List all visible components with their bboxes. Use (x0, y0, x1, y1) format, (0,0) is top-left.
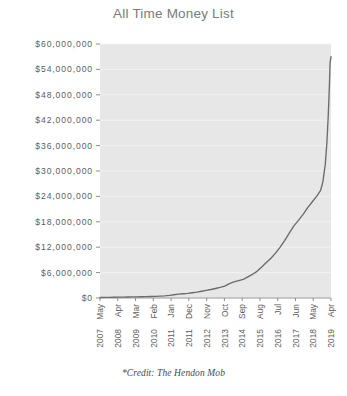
x-axis-tick-label-month: Jun (291, 304, 301, 318)
y-axis-tick-label: $24,000,000 (35, 191, 93, 201)
x-axis-tick-labels: May2007Apr2008Mar2009Feb2010Jan2011Dec20… (95, 303, 336, 347)
x-axis-tick-label-month: Oct (220, 303, 230, 317)
x-axis-tick-label-year: 2018 (308, 329, 318, 348)
x-axis-tick-label-year: 2019 (326, 329, 336, 348)
x-axis-tick-label-year: 2009 (131, 329, 141, 348)
x-axis-tick-label-month: Aug (255, 304, 265, 319)
x-axis-tick-label-year: 2013 (220, 329, 230, 348)
x-axis-tick-label-year: 2012 (202, 329, 212, 348)
x-axis-tick-label-year: 2014 (237, 329, 247, 348)
y-axis-tick-label: $30,000,000 (35, 166, 93, 176)
x-axis-tick-label-month: Mar (131, 304, 141, 319)
y-axis-tick-label: $12,000,000 (35, 242, 93, 252)
y-axis-tick-labels: $0$6,000,000$12,000,000$18,000,000$24,00… (35, 39, 93, 303)
x-axis-tick-label-month: May (308, 303, 318, 320)
y-axis-tick-label: $54,000,000 (35, 64, 93, 74)
x-axis-tick-label-year: 2015 (255, 329, 265, 348)
y-axis-tick-label: $48,000,000 (35, 90, 93, 100)
y-axis-tick-label: $6,000,000 (41, 268, 93, 278)
x-axis-tick-label-month: Sep (237, 304, 247, 319)
x-axis-tick-label-month: Jan (166, 304, 176, 318)
y-axis-tick-label: $36,000,000 (35, 141, 93, 151)
x-axis-tick-label-year: 2007 (95, 329, 105, 348)
x-axis-tick-label-month: Dec (184, 304, 194, 319)
x-axis-tick-label-month: Jul (273, 304, 283, 315)
credit-caption: *Credit: The Hendon Mob (0, 368, 347, 378)
chart-plot-area: $0$6,000,000$12,000,000$18,000,000$24,00… (0, 0, 347, 396)
x-axis-tick-label-year: 2017 (291, 329, 301, 348)
x-axis-tick-label-year: 2011 (166, 329, 176, 347)
x-axis-tick-label-year: 2011 (184, 329, 194, 347)
x-axis-tick-label-month: May (95, 303, 105, 320)
y-axis-tick-label: $60,000,000 (35, 39, 93, 49)
y-axis-tick-label: $42,000,000 (35, 115, 93, 125)
chart-figure: All Time Money List $0$6,000,000$12,000,… (0, 0, 347, 396)
x-axis-tick-label-month: Feb (149, 304, 159, 319)
x-axis-tick-label-year: 2010 (149, 329, 159, 348)
x-axis-tick-label-year: 2016 (273, 329, 283, 348)
x-axis-tick-label-year: 2008 (113, 329, 123, 348)
x-axis-tick-label-month: Apr (113, 304, 123, 317)
x-axis-tick-label-month: Nov (202, 303, 212, 319)
x-axis-tick-label-month: Apr (326, 304, 336, 317)
y-axis-tick-label: $0 (82, 293, 93, 303)
y-axis-tick-label: $18,000,000 (35, 217, 93, 227)
